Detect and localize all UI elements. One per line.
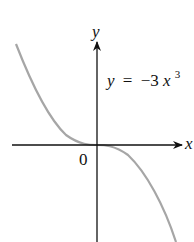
equation-label: y = −3 x 3 (105, 68, 181, 90)
plot-area: y x 0 y = −3 x 3 (0, 0, 194, 242)
origin-label: 0 (79, 150, 88, 169)
chart: y x 0 y = −3 x 3 (0, 0, 194, 242)
y-axis-label: y (90, 22, 100, 41)
x-axis-label: x (184, 134, 193, 153)
